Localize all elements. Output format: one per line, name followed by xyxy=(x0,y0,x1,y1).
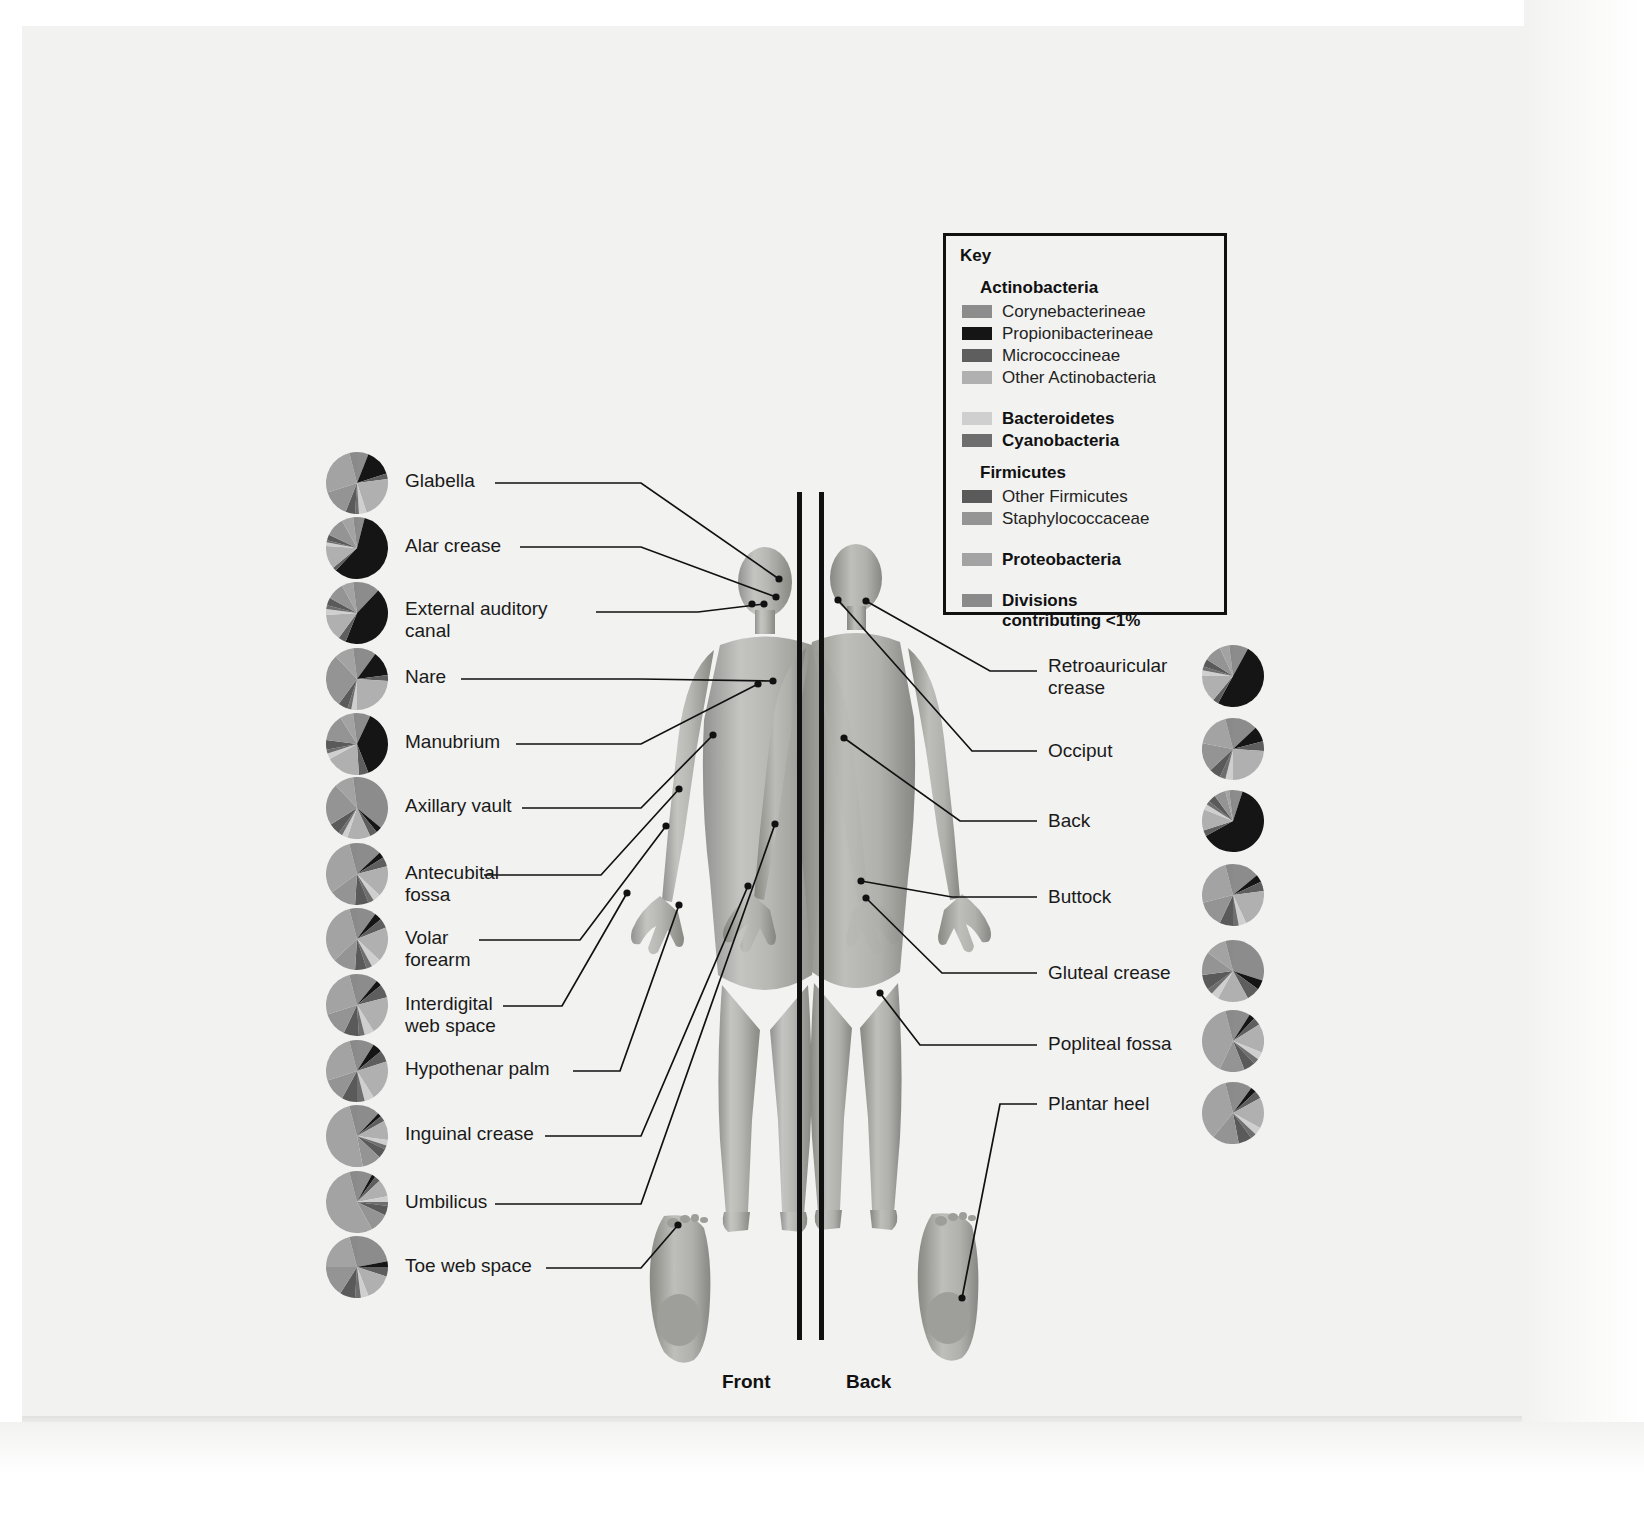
legend-item-label: Bacteroidetes xyxy=(1002,409,1114,429)
legend-group-heading: Actinobacteria xyxy=(980,278,1098,298)
site-pie-chart[interactable] xyxy=(326,777,388,839)
site-pie-chart[interactable] xyxy=(326,843,388,905)
legend-item[interactable]: Propionibacterineae xyxy=(962,324,1218,343)
legend-item[interactable]: Cyanobacteria xyxy=(962,431,1218,450)
legend-item[interactable]: Other Firmicutes xyxy=(962,487,1218,506)
site-label: Alar crease xyxy=(405,535,501,557)
site-pie-chart[interactable] xyxy=(326,908,388,970)
site-label: Volar forearm xyxy=(405,927,470,972)
site-pie-chart[interactable] xyxy=(1202,1082,1264,1144)
legend-swatch xyxy=(962,305,992,318)
legend-item[interactable]: Other Actinobacteria xyxy=(962,368,1218,387)
site-pie-chart[interactable] xyxy=(326,452,388,514)
site-label: Umbilicus xyxy=(405,1191,487,1213)
site-label: Axillary vault xyxy=(405,795,512,817)
legend-swatch xyxy=(962,371,992,384)
legend-item-label: Proteobacteria xyxy=(1002,550,1121,570)
legend-swatch xyxy=(962,490,992,503)
legend-item-label: Other Actinobacteria xyxy=(1002,368,1156,388)
legend-swatch xyxy=(962,434,992,447)
site-pie-chart[interactable] xyxy=(326,974,388,1036)
panel-divider-left xyxy=(797,492,802,1340)
site-label: Retroauricular crease xyxy=(1048,655,1167,700)
site-label: Back xyxy=(1048,810,1090,832)
site-label: Toe web space xyxy=(405,1255,532,1277)
legend-item[interactable]: Bacteroidetes xyxy=(962,409,1218,428)
site-label: Interdigital web space xyxy=(405,993,496,1038)
panel-divider-right xyxy=(819,492,824,1340)
site-label: Plantar heel xyxy=(1048,1093,1149,1115)
front-view-label: Front xyxy=(722,1371,771,1393)
site-pie-chart[interactable] xyxy=(1202,1010,1264,1072)
legend-swatch xyxy=(962,594,992,607)
site-pie-chart[interactable] xyxy=(1202,645,1264,707)
legend-item-label: Divisions contributing <1% xyxy=(1002,591,1140,631)
legend-item[interactable]: Proteobacteria xyxy=(962,550,1218,569)
site-pie-chart[interactable] xyxy=(1202,864,1264,926)
site-pie-chart[interactable] xyxy=(1202,790,1264,852)
site-pie-chart[interactable] xyxy=(326,1236,388,1298)
site-label: Glabella xyxy=(405,470,475,492)
legend-title: Key xyxy=(960,246,991,266)
site-label: Occiput xyxy=(1048,740,1112,762)
legend-key-box: Key ActinobacteriaCorynebacterineaePropi… xyxy=(943,233,1227,615)
site-pie-chart[interactable] xyxy=(1202,940,1264,1002)
site-label: Hypothenar palm xyxy=(405,1058,550,1080)
legend-item-label: Corynebacterineae xyxy=(1002,302,1146,322)
site-pie-chart[interactable] xyxy=(1202,718,1264,780)
site-pie-chart[interactable] xyxy=(326,1171,388,1233)
legend-item-label: Micrococcineae xyxy=(1002,346,1120,366)
site-pie-chart[interactable] xyxy=(326,648,388,710)
back-view-label: Back xyxy=(846,1371,891,1393)
legend-item[interactable]: Corynebacterineae xyxy=(962,302,1218,321)
legend-item[interactable]: Micrococcineae xyxy=(962,346,1218,365)
site-label: Nare xyxy=(405,666,446,688)
figure-canvas: Front Back Key ActinobacteriaCorynebacte… xyxy=(0,0,1644,1514)
site-pie-chart[interactable] xyxy=(326,1040,388,1102)
legend-swatch xyxy=(962,512,992,525)
site-label: Buttock xyxy=(1048,886,1111,908)
legend-item-label: Cyanobacteria xyxy=(1002,431,1119,451)
site-pie-chart[interactable] xyxy=(326,1105,388,1167)
site-pie-chart[interactable] xyxy=(326,517,388,579)
legend-item[interactable]: Divisions contributing <1% xyxy=(962,591,1218,610)
legend-item-label: Propionibacterineae xyxy=(1002,324,1153,344)
legend-group-heading: Firmicutes xyxy=(980,463,1066,483)
site-label: Manubrium xyxy=(405,731,500,753)
legend-swatch xyxy=(962,412,992,425)
legend-item-label: Staphylococcaceae xyxy=(1002,509,1149,529)
legend-item-label: Other Firmicutes xyxy=(1002,487,1128,507)
site-label: Popliteal fossa xyxy=(1048,1033,1172,1055)
site-pie-chart[interactable] xyxy=(326,713,388,775)
site-label: External auditory canal xyxy=(405,598,548,643)
site-pie-chart[interactable] xyxy=(326,582,388,644)
site-label: Antecubital fossa xyxy=(405,862,499,907)
site-label: Gluteal crease xyxy=(1048,962,1171,984)
legend-item[interactable]: Staphylococcaceae xyxy=(962,509,1218,528)
legend-swatch xyxy=(962,327,992,340)
legend-swatch xyxy=(962,553,992,566)
site-label: Inguinal crease xyxy=(405,1123,534,1145)
legend-swatch xyxy=(962,349,992,362)
